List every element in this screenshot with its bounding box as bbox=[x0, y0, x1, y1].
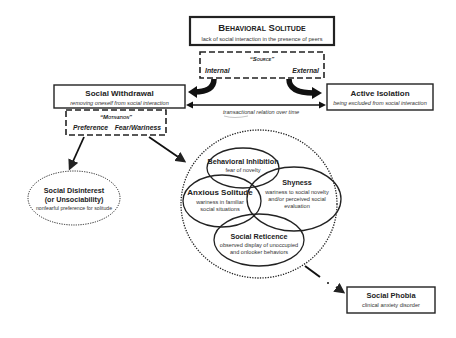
social-reticence-subtitle-line2: and onlooker behaviors bbox=[230, 249, 288, 255]
transactional-underline bbox=[224, 116, 248, 118]
motivation-fear-label: Fear/Wariness bbox=[115, 124, 162, 131]
motivation-preference-label: Preference bbox=[73, 124, 108, 131]
anxious-solitude-subtitle-line1: wariness in familiar bbox=[195, 199, 244, 205]
source-internal-label: Internal bbox=[205, 67, 230, 74]
behavioral-inhibition-subtitle: fear of novelty bbox=[225, 167, 260, 173]
external-arrowhead-icon bbox=[312, 87, 322, 99]
fear-arrow bbox=[149, 137, 184, 161]
phobia-arrow-segment bbox=[305, 266, 320, 277]
behavioral-inhibition-title: Behavioral Inhibition bbox=[207, 157, 278, 166]
anxious-solitude-title: Anxious Solitude bbox=[187, 188, 253, 197]
phobia-arrow-dot bbox=[327, 282, 329, 284]
active-isolation-subtitle: being excluded from social interaction bbox=[333, 100, 427, 106]
internal-arrowhead-icon bbox=[188, 86, 197, 98]
phobia-arrow-head bbox=[336, 287, 343, 292]
transactional-left-arrowhead-icon bbox=[186, 102, 193, 109]
motivation-header: “Motivation” bbox=[100, 114, 132, 120]
social-reticence-subtitle-line1: observed display of unoccupied bbox=[220, 242, 298, 248]
social-reticence-node: Social Reticence observed display of uno… bbox=[214, 214, 304, 266]
source-node: “Source” Internal External bbox=[200, 52, 324, 78]
behavioral-solitude-subtitle: lack of social interaction in the presen… bbox=[202, 36, 323, 42]
shyness-subtitle-line2: and/or perceived social bbox=[268, 196, 326, 202]
social-disinterest-title-line2: (or Unsociability) bbox=[45, 195, 104, 204]
social-disinterest-title-line1: Social Disinterest bbox=[44, 186, 105, 195]
motivation-node: “Motivation” Preference Fear/Wariness bbox=[66, 110, 166, 135]
source-header: “Source” bbox=[250, 56, 274, 62]
active-isolation-node: Active Isolation being excluded from soc… bbox=[327, 84, 433, 110]
social-phobia-subtitle: clinical anxiety disorder bbox=[362, 302, 420, 308]
anxious-solitude-subtitle-line2: social situations bbox=[200, 206, 240, 212]
shyness-title: Shyness bbox=[282, 178, 312, 187]
social-phobia-node: Social Phobia clinical anxiety disorder bbox=[347, 287, 435, 313]
behavioral-inhibition-node: Behavioral Inhibition fear of novelty bbox=[207, 148, 279, 188]
social-disinterest-node: Social Disinterest (or Unsociability) no… bbox=[28, 171, 120, 225]
social-reticence-title: Social Reticence bbox=[230, 232, 287, 241]
shyness-subtitle-line1: wariness to social novelty bbox=[264, 189, 329, 195]
active-isolation-title: Active Isolation bbox=[350, 89, 409, 98]
external-arrow bbox=[289, 79, 314, 93]
social-withdrawal-title: Social Withdrawal bbox=[85, 89, 153, 98]
social-withdrawal-subtitle: removing oneself from social interaction bbox=[70, 100, 169, 106]
anxious-solitude-node: Anxious Solitude wariness in familiar so… bbox=[183, 175, 261, 227]
social-withdrawal-node: Social Withdrawal removing oneself from … bbox=[54, 85, 185, 108]
diagram-canvas: Behavioral Solitude lack of social inter… bbox=[0, 0, 456, 338]
source-external-label: External bbox=[292, 67, 319, 74]
behavioral-solitude-title: Behavioral Solitude bbox=[218, 22, 306, 33]
behavioral-solitude-node: Behavioral Solitude lack of social inter… bbox=[190, 17, 334, 45]
preference-arrow bbox=[70, 137, 84, 168]
social-disinterest-subtitle: nonfearful preference for solitude bbox=[36, 205, 112, 211]
transactional-label: transactional relation over time bbox=[223, 109, 299, 115]
social-phobia-title: Social Phobia bbox=[366, 291, 416, 300]
transactional-right-arrowhead-icon bbox=[319, 102, 326, 109]
shyness-subtitle-line3: evaluation bbox=[284, 203, 310, 209]
